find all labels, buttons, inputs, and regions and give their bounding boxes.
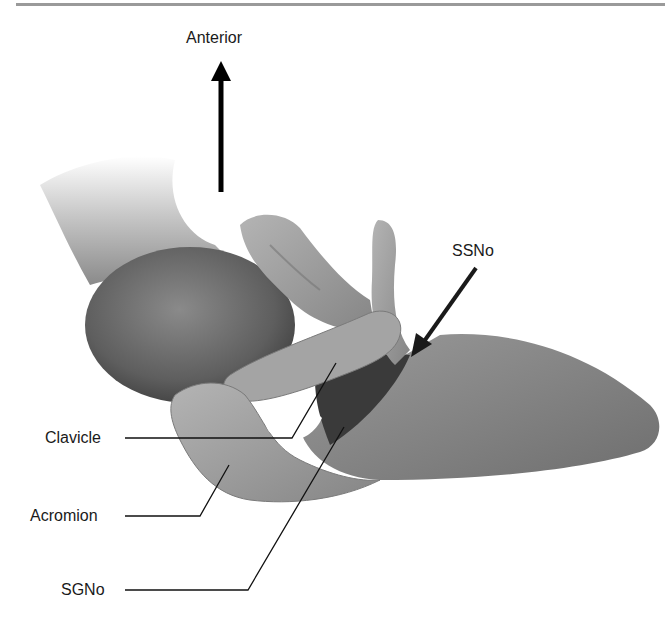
label-anterior: Anterior (186, 30, 242, 46)
scapula-illustration (0, 0, 665, 639)
label-sgno: SGNo (61, 582, 105, 598)
anterior-arrow-icon (211, 61, 231, 192)
label-ssno: SSNo (452, 243, 494, 259)
label-clavicle: Clavicle (45, 430, 101, 446)
label-acromion: Acromion (30, 508, 98, 524)
figure-caption-cutoff (18, 630, 648, 639)
